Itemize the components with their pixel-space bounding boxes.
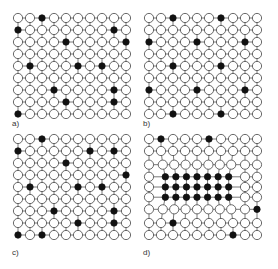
empty-site	[252, 160, 261, 169]
empty-site	[61, 182, 70, 191]
empty-site	[13, 97, 22, 106]
empty-site	[73, 134, 82, 143]
filled-site	[215, 174, 221, 180]
empty-site	[252, 13, 261, 22]
empty-site	[121, 182, 130, 191]
filled-site	[225, 184, 231, 190]
filled-site	[183, 184, 189, 190]
empty-site	[240, 49, 249, 58]
empty-site	[85, 85, 94, 94]
empty-site	[85, 194, 94, 203]
empty-site	[25, 206, 34, 215]
empty-site	[252, 193, 261, 202]
empty-site	[204, 109, 213, 118]
filled-site	[63, 160, 69, 166]
empty-site	[85, 97, 94, 106]
empty-site	[156, 85, 165, 94]
empty-site	[204, 160, 213, 169]
empty-site	[73, 158, 82, 167]
empty-site	[252, 85, 261, 94]
empty-site	[240, 25, 249, 34]
empty-site	[97, 13, 106, 22]
empty-site	[73, 25, 82, 34]
empty-site	[240, 205, 249, 214]
filled-site	[146, 39, 152, 45]
empty-site	[216, 85, 225, 94]
empty-site	[37, 61, 46, 70]
filled-site	[218, 111, 224, 117]
empty-site	[49, 158, 58, 167]
empty-site	[13, 73, 22, 82]
empty-site	[144, 172, 153, 181]
empty-site	[73, 49, 82, 58]
filled-site	[218, 15, 224, 21]
empty-site	[156, 37, 165, 46]
empty-site	[97, 158, 106, 167]
empty-site	[252, 97, 261, 106]
filled-site	[183, 194, 189, 200]
empty-site	[49, 49, 58, 58]
empty-site	[37, 194, 46, 203]
filled-site	[162, 184, 168, 190]
empty-site	[37, 170, 46, 179]
filled-site	[204, 184, 210, 190]
empty-site	[192, 61, 201, 70]
empty-site	[25, 97, 34, 106]
empty-site	[216, 25, 225, 34]
empty-site	[180, 37, 189, 46]
empty-site	[240, 218, 249, 227]
empty-site	[204, 37, 213, 46]
empty-site	[61, 134, 70, 143]
filled-site	[173, 174, 179, 180]
empty-site	[109, 158, 118, 167]
filled-site	[170, 220, 176, 226]
empty-site	[25, 73, 34, 82]
empty-site	[49, 61, 58, 70]
filled-site	[39, 15, 45, 21]
empty-site	[49, 73, 58, 82]
filled-site	[204, 174, 210, 180]
empty-site	[85, 170, 94, 179]
empty-site	[204, 73, 213, 82]
empty-site	[25, 85, 34, 94]
empty-site	[144, 182, 153, 191]
empty-site	[168, 49, 177, 58]
empty-site	[25, 230, 34, 239]
empty-site	[97, 25, 106, 34]
empty-site	[97, 194, 106, 203]
empty-site	[227, 160, 236, 169]
empty-site	[85, 158, 94, 167]
filled-site	[170, 63, 176, 69]
empty-site	[13, 49, 22, 58]
empty-site	[13, 218, 22, 227]
empty-site	[156, 61, 165, 70]
empty-site	[240, 109, 249, 118]
empty-site	[37, 25, 46, 34]
empty-site	[13, 170, 22, 179]
filled-site	[87, 148, 93, 154]
lattice-figure	[0, 0, 278, 269]
empty-site	[240, 172, 249, 181]
empty-site	[61, 146, 70, 155]
empty-site	[192, 134, 201, 143]
empty-site	[121, 109, 130, 118]
empty-site	[109, 49, 118, 58]
panel-label-a: a)	[12, 119, 19, 128]
empty-site	[144, 73, 153, 82]
empty-site	[97, 49, 106, 58]
empty-site	[240, 134, 249, 143]
filled-site	[15, 148, 21, 154]
filled-site	[15, 232, 21, 238]
empty-site	[109, 134, 118, 143]
empty-site	[121, 218, 130, 227]
empty-site	[228, 61, 237, 70]
empty-site	[228, 49, 237, 58]
filled-site	[158, 136, 164, 142]
empty-site	[49, 218, 58, 227]
empty-site	[180, 85, 189, 94]
empty-site	[25, 13, 34, 22]
empty-site	[144, 218, 153, 227]
empty-site	[73, 146, 82, 155]
filled-site	[15, 27, 21, 33]
empty-site	[85, 218, 94, 227]
